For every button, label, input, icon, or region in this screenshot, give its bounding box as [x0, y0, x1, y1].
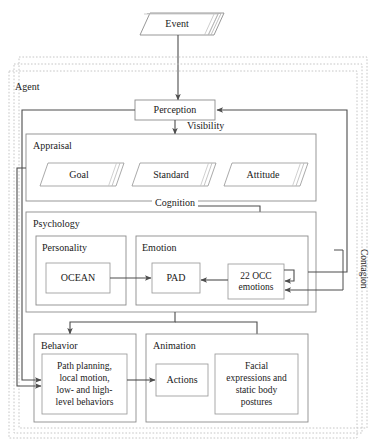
personality-label: Personality — [42, 243, 87, 253]
facial-line-2: expressions and — [226, 372, 286, 384]
occ-emotions-label: 22 OCC emotions — [228, 264, 284, 299]
psychology-label: Psychology — [33, 219, 80, 229]
behavior-detail-line-2: local motion, — [59, 372, 109, 384]
occ-emotions-line-1: 22 OCC — [240, 271, 271, 282]
standard-label: Standard — [140, 163, 202, 186]
behavior-detail-label: Path planning, local motion, low- and hi… — [42, 354, 127, 414]
attitude-label: Attitude — [232, 163, 294, 186]
facial-expressions-label: Facial expressions and static body postu… — [215, 354, 298, 414]
perception-label: Perception — [135, 100, 215, 120]
actions-label: Actions — [156, 364, 208, 396]
facial-line-4: postures — [241, 396, 273, 408]
goal-label: Goal — [48, 163, 110, 186]
contagion-label: Contagion — [358, 241, 368, 297]
visibility-label: Visibility — [185, 121, 226, 131]
behavior-label: Behavior — [41, 341, 78, 351]
cognition-label: Cognition — [152, 198, 198, 208]
occ-emotions-line-2: emotions — [239, 282, 274, 293]
behavior-detail-line-4: level behaviors — [56, 396, 114, 408]
diagram-canvas: Event Agent Perception Visibility Apprai… — [0, 0, 372, 443]
behavior-detail-line-3: low- and high- — [57, 384, 113, 396]
edge-psychology-to-behavior — [70, 312, 175, 334]
behavior-detail-line-1: Path planning, — [57, 360, 112, 372]
pad-label: PAD — [152, 263, 200, 293]
emotion-label: Emotion — [142, 243, 176, 253]
facial-line-3: static body — [236, 384, 277, 396]
facial-line-1: Facial — [245, 360, 268, 372]
event-label: Event — [142, 13, 212, 35]
ocean-label: OCEAN — [46, 263, 110, 293]
contagion-bracket — [334, 250, 343, 290]
agent-label: Agent — [15, 82, 39, 92]
animation-label: Animation — [153, 341, 196, 351]
appraisal-label: Appraisal — [33, 141, 72, 151]
